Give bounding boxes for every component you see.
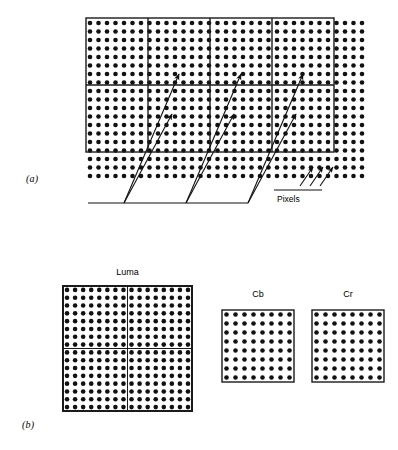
sample-dot	[137, 397, 142, 402]
sample-dot	[377, 366, 382, 371]
pixel-dot	[249, 123, 254, 128]
pixel-dot	[173, 131, 178, 136]
pixel-dot	[139, 131, 144, 136]
pixel-dot	[224, 97, 229, 102]
pixel-dot	[334, 38, 339, 43]
pixel-dot	[122, 55, 127, 60]
pixel-dot	[164, 131, 169, 136]
sample-dot	[97, 295, 102, 300]
pixel-dot	[300, 157, 305, 162]
sample-dot	[89, 303, 94, 308]
sample-dot	[137, 350, 142, 355]
pixel-dot	[326, 131, 331, 136]
sample-dot	[145, 295, 150, 300]
sample-dot	[73, 381, 78, 386]
sample-dot	[81, 381, 86, 386]
sample-dot	[359, 339, 364, 344]
callout-arrow	[124, 74, 179, 203]
sample-dot	[170, 358, 175, 363]
pixel-dot	[351, 165, 356, 170]
sample-dot	[153, 366, 158, 371]
pixel-dot	[173, 123, 178, 128]
sample-dot	[368, 312, 373, 317]
sample-dot	[186, 342, 191, 347]
pixel-dot	[334, 72, 339, 77]
pixel-dot	[317, 72, 322, 77]
pixel-dot	[181, 140, 186, 145]
pixel-dot	[317, 46, 322, 51]
pixel-dot	[215, 29, 220, 34]
sample-dot	[129, 389, 134, 394]
pixel-dot	[300, 63, 305, 68]
pixel-dot	[317, 80, 322, 85]
sample-dot	[233, 321, 238, 326]
pixel-dot	[156, 63, 161, 68]
sample-dot	[113, 342, 118, 347]
sample-dot	[314, 348, 319, 353]
pixel-dot	[275, 55, 280, 60]
sample-dot	[287, 357, 292, 362]
pixel-dot	[215, 46, 220, 51]
sample-dot	[178, 334, 183, 339]
sample-dot	[121, 366, 126, 371]
sample-dot	[129, 366, 134, 371]
pixel-dot	[224, 63, 229, 68]
pixel-dot	[249, 29, 254, 34]
sample-dot	[105, 327, 110, 332]
pixel-dot	[122, 165, 127, 170]
sample-dot	[359, 321, 364, 326]
pixel-dot	[96, 157, 101, 162]
pixel-dot	[300, 29, 305, 34]
sample-dot	[269, 366, 274, 371]
pixel-dot	[156, 21, 161, 26]
pixel-dot	[224, 21, 229, 26]
sample-dot	[178, 374, 183, 379]
sample-dot	[278, 330, 283, 335]
sample-dot	[97, 319, 102, 324]
sample-dot	[161, 381, 166, 386]
pixel-dot	[334, 21, 339, 26]
pixel-dot	[224, 140, 229, 145]
sample-dot	[65, 350, 70, 355]
sample-dot	[105, 303, 110, 308]
pixel-dot	[113, 140, 118, 145]
cr-block-caption: Cr	[312, 289, 384, 299]
pixel-dot	[258, 38, 263, 43]
sample-dot	[178, 327, 183, 332]
pixel-dot	[283, 63, 288, 68]
pixel-dot	[241, 55, 246, 60]
sample-dot	[65, 358, 70, 363]
pixel-dot	[96, 80, 101, 85]
pixel-dot	[164, 157, 169, 162]
pixel-dot	[215, 165, 220, 170]
pixel-dot	[224, 114, 229, 119]
sample-dot	[129, 381, 134, 386]
sample-dot	[145, 358, 150, 363]
pixel-dot	[173, 46, 178, 51]
sample-dot	[287, 330, 292, 335]
sample-dot	[314, 321, 319, 326]
pixel-dot	[317, 114, 322, 119]
sample-dot	[121, 389, 126, 394]
pixel-dot	[130, 89, 135, 94]
pixel-dot	[181, 29, 186, 34]
pixel-dot	[343, 174, 348, 179]
pixel-dot	[198, 38, 203, 43]
pixel-dot	[292, 80, 297, 85]
pixel-dot	[198, 106, 203, 111]
pixel-dot	[317, 21, 322, 26]
pixel-dot	[88, 89, 93, 94]
sample-dot	[233, 348, 238, 353]
pixel-dot	[351, 63, 356, 68]
sample-dot	[145, 366, 150, 371]
pixel-dot	[360, 55, 365, 60]
pixel-dot	[156, 72, 161, 77]
sample-dot	[129, 358, 134, 363]
sample-dot	[178, 397, 183, 402]
sample-dot	[186, 381, 191, 386]
pixel-dot	[241, 123, 246, 128]
sample-dot	[242, 366, 247, 371]
pixel-dot	[190, 140, 195, 145]
pixel-dot	[360, 97, 365, 102]
pixel-dot	[258, 106, 263, 111]
